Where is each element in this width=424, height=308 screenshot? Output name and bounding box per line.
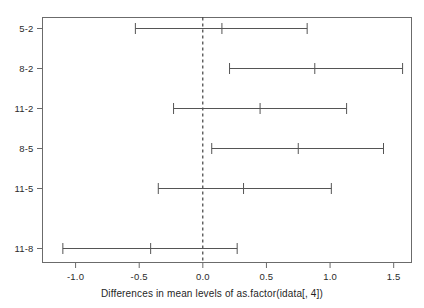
x-tick-label-4: 1.0	[310, 271, 350, 282]
x-tick-label-1: -0.5	[119, 271, 159, 282]
interval-11-5	[158, 183, 331, 194]
y-tick-label-11-5: 11-5	[0, 183, 34, 194]
x-tick-label-2: 0.0	[183, 271, 223, 282]
y-tick-label-8-2: 8-2	[0, 63, 34, 74]
y-tick-label-8-5: 8-5	[0, 143, 34, 154]
interval-5-2	[135, 23, 307, 34]
x-axis-ticks	[76, 263, 394, 269]
interval-11-8	[63, 243, 237, 254]
y-tick-label-5-2: 5-2	[0, 23, 34, 34]
x-axis-title: Differences in mean levels of as.factor(…	[0, 288, 424, 299]
tukey-hsd-plot: 5-28-211-28-511-511-8 -1.0-0.50.00.51.01…	[0, 0, 424, 308]
x-tick-label-3: 0.5	[246, 271, 286, 282]
plot-frame	[43, 18, 412, 263]
interval-11-2	[174, 103, 347, 114]
x-tick-label-0: -1.0	[56, 271, 96, 282]
confidence-intervals	[63, 23, 403, 254]
plot-canvas	[0, 0, 424, 308]
y-tick-label-11-2: 11-2	[0, 103, 34, 114]
y-axis-ticks	[37, 29, 43, 249]
interval-8-5	[212, 143, 384, 154]
x-tick-label-5: 1.5	[374, 271, 414, 282]
interval-8-2	[230, 63, 403, 74]
y-tick-label-11-8: 11-8	[0, 243, 34, 254]
